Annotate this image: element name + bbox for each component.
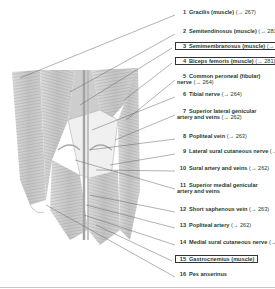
label-name: Popliteal vein <box>189 133 225 139</box>
label-2: 2Semitendinosus (muscle) (→ 281) <box>177 28 275 34</box>
label-number: 13 <box>177 222 186 228</box>
label-name: Tibial nerve <box>189 91 220 97</box>
label-ref: (→ 267) <box>236 9 256 15</box>
label-8: 8Popliteal vein (→ 263) <box>177 133 247 139</box>
label-number: 3 <box>177 43 186 49</box>
label-name: Gastrocnemius (muscle) <box>189 256 254 262</box>
label-16: 16Pes anserinus <box>177 271 227 277</box>
label-name: Superior lateral genicular artery and ve… <box>177 108 256 120</box>
label-name: Semimembranosus (muscle) <box>189 43 265 49</box>
label-5: 5Common peroneal (fibular) nerve (→ 264) <box>177 73 273 86</box>
label-name: Biceps femoris (muscle) <box>189 58 254 64</box>
label-number: 8 <box>177 133 186 139</box>
label-3: 3Semimembranosus (muscle) (→ 281) <box>175 42 275 50</box>
label-7: 7Superior lateral genicular artery and v… <box>177 108 273 121</box>
label-name: Semitendinosus (muscle) <box>189 28 257 34</box>
label-number: 12 <box>177 206 186 212</box>
label-12: 12Short saphenous vein (→ 263) <box>177 206 269 212</box>
label-number: 15 <box>177 256 186 262</box>
label-ref: (→ 281) <box>255 58 275 64</box>
label-number: 2 <box>177 28 186 34</box>
label-name: Gracilis (muscle) <box>189 9 234 15</box>
label-name: Superior medial genicular artery and vei… <box>177 182 258 194</box>
label-name: Lateral sural cutaneous nerve <box>189 148 268 154</box>
label-number: 16 <box>177 271 186 277</box>
label-15: 15Gastrocnemius (muscle) <box>175 255 258 263</box>
label-number: 1 <box>177 9 186 15</box>
label-name: Short saphenous vein <box>189 206 247 212</box>
label-14: 14Medial sural cutaneous nerve (→ 301) <box>177 239 275 245</box>
label-9: 9Lateral sural cutaneous nerve (→ 301) <box>177 148 275 154</box>
label-13: 13Popliteal artery (→ 262) <box>177 222 251 228</box>
label-name: Sural artery and veins <box>189 165 247 171</box>
label-name: Medial sural cutaneous nerve <box>189 239 267 245</box>
label-ref: (→ 263) <box>227 133 247 139</box>
label-number: 4 <box>177 58 186 64</box>
label-11: 11Superior medial genicular artery and v… <box>177 182 273 195</box>
label-ref: (→ 263) <box>249 206 269 212</box>
label-4: 4Biceps femoris (muscle) (→ 281) <box>175 57 275 65</box>
bottom-rule <box>0 287 275 288</box>
thigh-muscles <box>12 68 140 245</box>
label-number: 10 <box>177 165 186 171</box>
label-number: 9 <box>177 148 186 154</box>
label-1: 1Gracilis (muscle) (→ 267) <box>177 9 256 15</box>
label-ref: (→ 262) <box>221 114 241 120</box>
label-name: Common peroneal (fibular) nerve <box>177 73 260 85</box>
label-ref: (→ 281) <box>267 43 275 49</box>
label-ref: (→ 301) <box>269 239 275 245</box>
label-ref: (→ 264) <box>194 79 214 85</box>
label-number: 14 <box>177 239 186 245</box>
label-ref: (→ 281) <box>258 28 275 34</box>
label-ref: (→ 301) <box>270 148 275 154</box>
label-number: 6 <box>177 91 186 97</box>
label-6: 6Tibial nerve (→ 264) <box>177 91 242 97</box>
label-name: Popliteal artery <box>189 222 229 228</box>
label-ref: (→ 262) <box>231 222 251 228</box>
label-ref: (→ 262) <box>249 165 269 171</box>
label-name: Pes anserinus <box>189 271 227 277</box>
label-ref: (→ 264) <box>222 91 242 97</box>
label-10: 10Sural artery and veins (→ 262) <box>177 165 269 171</box>
